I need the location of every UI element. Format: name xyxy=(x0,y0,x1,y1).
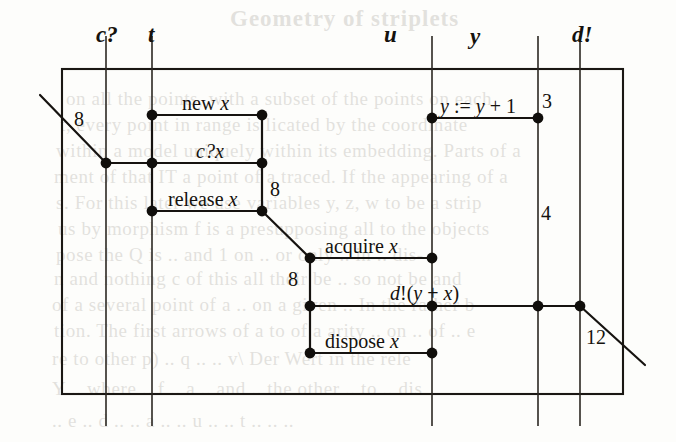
event-label: c?x xyxy=(196,140,224,163)
track-label-u: u xyxy=(384,22,397,48)
event-node[interactable] xyxy=(101,158,112,169)
event-label: y := y + 1 xyxy=(440,95,516,118)
connector-lines xyxy=(40,95,645,365)
track-label-t: t xyxy=(148,22,154,48)
weight-incoming: 8 xyxy=(74,108,84,131)
weight-release-branch: 8 xyxy=(270,178,280,201)
event-node[interactable] xyxy=(427,348,438,359)
event-label: new x xyxy=(182,92,229,115)
track-label-c: c? xyxy=(96,22,118,48)
event-node[interactable] xyxy=(427,253,438,264)
connector-release-to-acquire xyxy=(262,211,310,258)
event-label: release x xyxy=(168,188,237,211)
event-label: dispose x xyxy=(325,330,399,353)
event-node[interactable] xyxy=(575,301,586,312)
event-node[interactable] xyxy=(257,158,268,169)
weight-assignment: 3 xyxy=(542,90,552,113)
weight-outgoing: 12 xyxy=(586,326,606,349)
event-node[interactable] xyxy=(305,253,316,264)
event-node[interactable] xyxy=(257,206,268,217)
event-label: acquire x xyxy=(325,235,398,258)
event-label: d!(y + x) xyxy=(390,282,459,305)
figure-page: Geometry of striplets on all the points,… xyxy=(0,0,676,442)
weight-y-track: 4 xyxy=(541,202,551,225)
event-lines xyxy=(106,115,580,353)
event-node[interactable] xyxy=(533,301,544,312)
event-node[interactable] xyxy=(147,206,158,217)
track-label-d: d! xyxy=(572,22,592,48)
event-nodes xyxy=(101,110,586,359)
connector-incoming-arc xyxy=(40,95,106,163)
track-label-y: y xyxy=(470,24,480,50)
event-node[interactable] xyxy=(533,113,544,124)
event-node[interactable] xyxy=(147,110,158,121)
event-node[interactable] xyxy=(257,110,268,121)
event-node[interactable] xyxy=(305,348,316,359)
event-node[interactable] xyxy=(305,301,316,312)
diagram-canvas xyxy=(0,0,676,442)
event-node[interactable] xyxy=(427,113,438,124)
event-node[interactable] xyxy=(147,158,158,169)
weight-acquire-branch: 8 xyxy=(288,268,298,291)
